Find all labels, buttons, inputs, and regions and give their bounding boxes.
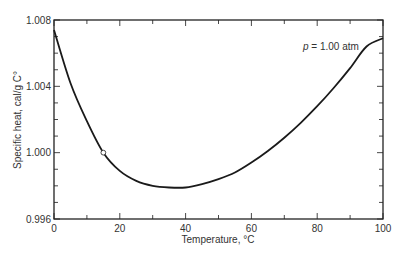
x-tick-label: 0 — [51, 223, 57, 234]
x-tick-label: 60 — [246, 223, 258, 234]
x-tick-label: 100 — [375, 223, 392, 234]
x-axis-title: Temperature, °C — [182, 234, 255, 245]
y-tick-label: 1.004 — [26, 81, 51, 92]
y-tick-label: 1.000 — [26, 147, 51, 158]
y-tick-label: 1.008 — [26, 15, 51, 26]
specific-heat-chart: 020406080100 0.9961.0001.0041.008 Temper… — [0, 0, 402, 257]
x-tick-label: 20 — [114, 223, 126, 234]
x-tick-labels: 020406080100 — [51, 223, 392, 234]
specific-heat-curve — [54, 30, 383, 188]
y-tick-label: 0.996 — [26, 214, 51, 225]
x-tick-label: 80 — [312, 223, 324, 234]
pressure-annotation: p = 1.00 atm — [302, 41, 359, 52]
pressure-value: = 1.00 atm — [309, 41, 359, 52]
y-tick-labels: 0.9961.0001.0041.008 — [26, 15, 51, 225]
reference-point-marker — [101, 150, 106, 155]
x-tick-label: 40 — [180, 223, 192, 234]
y-axis-title: Specific heat, cal/g C° — [12, 71, 23, 169]
